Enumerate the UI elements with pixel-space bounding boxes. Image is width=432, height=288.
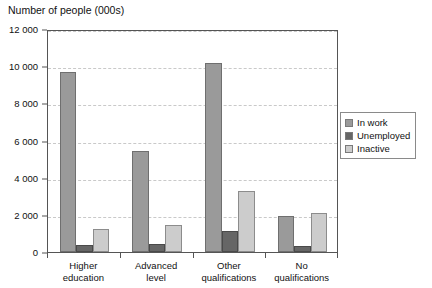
x-category-label-line: Other xyxy=(201,260,256,272)
bar-no-qualifications-unemployed xyxy=(294,246,311,252)
x-category-label-line: qualifications xyxy=(201,272,256,284)
x-tick-mark xyxy=(337,253,338,258)
y-tick-label: 2 000 xyxy=(14,211,38,221)
x-axis: HighereducationAdvancedlevelOtherqualifi… xyxy=(47,253,338,288)
y-tick-label: 6 000 xyxy=(14,137,38,147)
bar-chart-figure: Number of people (000s) 02 0004 0006 000… xyxy=(0,0,432,288)
legend-label: Unemployed xyxy=(357,130,410,141)
x-tick-mark xyxy=(47,253,48,258)
plot-area xyxy=(47,30,338,253)
x-tick-mark xyxy=(193,253,194,258)
x-category-label: Noqualifications xyxy=(274,260,329,283)
legend-item-inactive: Inactive xyxy=(345,142,410,155)
x-category-label: Otherqualifications xyxy=(201,260,256,283)
y-axis: 02 0004 0006 0008 00010 00012 000 xyxy=(0,30,47,253)
x-category-label: Highereducation xyxy=(63,260,104,283)
x-category-label-line: level xyxy=(135,272,177,284)
y-tick-label: 10 000 xyxy=(9,62,38,72)
x-tick-mark xyxy=(265,253,266,258)
y-tick-label: 8 000 xyxy=(14,99,38,109)
legend-label: In work xyxy=(357,117,388,128)
chart-title: Number of people (000s) xyxy=(8,4,124,17)
bar-higher-education-in-work xyxy=(60,72,77,252)
legend-swatch-icon xyxy=(345,145,353,153)
bars-layer xyxy=(48,31,337,252)
bar-other-qualifications-in-work xyxy=(205,63,222,252)
x-category-label-line: Higher xyxy=(63,260,104,272)
legend-item-unemployed: Unemployed xyxy=(345,129,410,142)
x-category-label-line: No xyxy=(274,260,329,272)
bar-other-qualifications-inactive xyxy=(238,191,255,252)
bar-other-qualifications-unemployed xyxy=(222,231,239,252)
bar-no-qualifications-in-work xyxy=(278,216,295,252)
x-category-label: Advancedlevel xyxy=(135,260,177,283)
legend-swatch-icon xyxy=(345,132,353,140)
legend-label: Inactive xyxy=(357,143,390,154)
chart-legend: In workUnemployedInactive xyxy=(340,112,416,159)
y-tick-label: 4 000 xyxy=(14,174,38,184)
bar-higher-education-inactive xyxy=(93,229,110,252)
bar-advanced-level-inactive xyxy=(165,225,182,252)
y-tick-label: 12 000 xyxy=(9,25,38,35)
bar-advanced-level-unemployed xyxy=(149,244,166,252)
legend-item-in-work: In work xyxy=(345,116,410,129)
bar-no-qualifications-inactive xyxy=(311,213,328,252)
x-category-label-line: qualifications xyxy=(274,272,329,284)
bar-higher-education-unemployed xyxy=(76,245,93,252)
bar-advanced-level-in-work xyxy=(132,151,149,252)
legend-swatch-icon xyxy=(345,119,353,127)
x-category-label-line: education xyxy=(63,272,104,284)
x-category-label-line: Advanced xyxy=(135,260,177,272)
x-tick-mark xyxy=(120,253,121,258)
y-tick-label: 0 xyxy=(33,248,38,258)
